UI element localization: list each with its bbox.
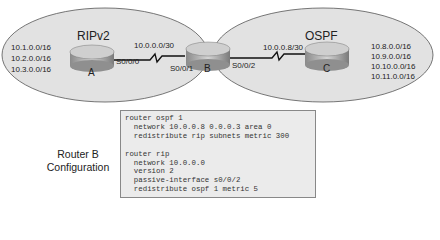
router-a-network: 10.2.0.0/16 [11,55,51,63]
router-c-network: 10.8.0.0/16 [371,43,411,51]
router-a-label: A [88,68,95,78]
link-subnet-b-c: 10.0.0.8/30 [263,44,303,52]
router-b-config-box: router ospf 1 network 10.0.0.8 0.0.0.3 a… [120,110,316,198]
interface-b-s0-0-2: S0/0/2 [232,62,255,70]
router-c-network: 10.10.0.0/16 [371,63,415,71]
router-b-config-text: router ospf 1 network 10.0.0.8 0.0.0.3 a… [125,114,311,194]
area-label-ripv2: RIPv2 [77,29,110,43]
config-title-line1: Router B [38,148,118,161]
router-c-network: 10.11.0.0/16 [371,73,415,81]
interface-b-s0-0-1: S0/0/1 [170,65,193,73]
link-subnet-a-b: 10.0.0.0/30 [134,42,174,50]
router-a-network: 10.1.0.0/16 [11,44,51,52]
area-label-ospf: OSPF [305,29,338,43]
interface-a-s0-0-0: S0/0/0 [116,58,139,66]
router-b-label: B [204,64,211,74]
router-c-network: 10.9.0.0/16 [371,53,411,61]
router-c-label: C [323,64,330,74]
router-a-network: 10.3.0.0/16 [11,66,51,74]
config-title: Router B Configuration [38,148,118,174]
config-title-line2: Configuration [38,161,118,174]
